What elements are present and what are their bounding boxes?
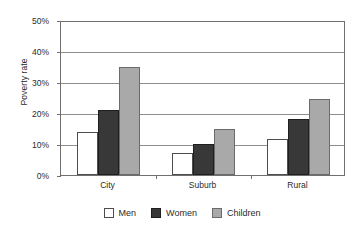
bar-group-bars [156, 22, 251, 175]
legend-label: Children [227, 208, 261, 218]
legend-label: Women [166, 208, 197, 218]
legend-item-women[interactable]: Women [151, 208, 197, 218]
legend-item-men[interactable]: Men [104, 208, 137, 218]
poverty-rate-bar-chart: Poverty rate 0%10%20%30%40%50% CitySubur… [0, 0, 364, 241]
x-axis-tick-mark [156, 175, 157, 179]
bar-group-suburb [156, 22, 251, 175]
y-tick-label: 0% [37, 171, 49, 181]
bar-suburb-men [172, 153, 193, 175]
bar-group-bars [251, 22, 346, 175]
y-tick-label: 10% [32, 140, 49, 150]
bar-city-women [98, 110, 119, 175]
legend-label: Men [119, 208, 137, 218]
bar-suburb-children [214, 129, 235, 176]
y-tick-label: 50% [32, 16, 49, 26]
legend-swatch-men-icon [104, 208, 114, 218]
legend-swatch-women-icon [151, 208, 161, 218]
y-tick-label: 30% [32, 78, 49, 88]
y-tick-label: 40% [32, 47, 49, 57]
bar-group-city [61, 22, 156, 175]
bar-rural-children [309, 99, 330, 175]
bar-group-bars [61, 22, 156, 175]
x-label-city: City [100, 180, 115, 190]
y-tick-label: 20% [32, 109, 49, 119]
plot-area [60, 21, 345, 176]
chart-legend: MenWomenChildren [0, 208, 364, 218]
bar-rural-women [288, 119, 309, 175]
y-axis-tick-mark [57, 176, 61, 177]
x-label-rural: Rural [287, 180, 307, 190]
bar-city-men [77, 132, 98, 175]
bar-city-children [119, 67, 140, 176]
legend-swatch-children-icon [212, 208, 222, 218]
x-label-suburb: Suburb [189, 180, 216, 190]
x-axis-tick-mark [251, 175, 252, 179]
legend-item-children[interactable]: Children [212, 208, 261, 218]
x-axis-category-labels: CitySuburbRural [60, 180, 345, 194]
bar-group-rural [251, 22, 346, 175]
bar-rural-men [267, 139, 288, 175]
y-axis-tick-labels: 0%10%20%30%40%50% [0, 0, 57, 241]
bar-suburb-women [193, 144, 214, 175]
